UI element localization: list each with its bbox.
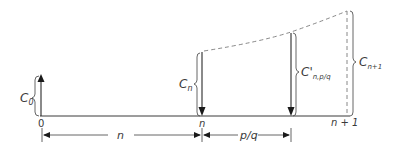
arrow-up-icon [38,74,45,82]
label-cn: Cn [179,77,192,93]
arrow-down-icon [199,107,206,116]
brace-cn [194,53,200,116]
dimension-label-n: n [117,129,124,142]
interpolation-curve [204,11,347,51]
arrow-down-icon [288,107,295,116]
tick-label-0: 0 [38,118,44,129]
label-c0: C0 [20,91,33,107]
arrow-right-icon [283,132,290,138]
dimension-n: n [42,128,201,142]
brace-cn1 [350,11,356,116]
flow-cn [194,52,206,116]
arrow-right-icon [194,132,201,138]
tick-label-n-plus-1: n + 1 [331,117,358,128]
tick-label-n: n [199,118,205,129]
brace-c-prime [293,33,299,116]
arrow-left-icon [203,132,210,138]
flow-c-prime [288,33,300,116]
cash-flow-diagram: C0 Cn C'n,p/q Cn+1 0 n n + 1 n p/q [0,0,399,152]
dimension-pq: p/q [202,128,291,142]
label-c-prime: C'n,p/q [301,65,331,81]
dimension-label-pq: p/q [239,129,258,142]
label-cn1: Cn+1 [359,55,382,71]
flow-c0 [32,74,45,116]
arrow-left-icon [43,132,50,138]
